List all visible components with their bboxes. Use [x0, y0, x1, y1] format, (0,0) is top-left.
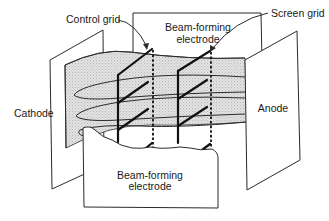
- cathode-label: Cathode: [14, 107, 54, 119]
- bottom-beam-forming-electrode: [83, 127, 218, 208]
- anode-label: Anode: [258, 102, 289, 114]
- top-beam-forming-label-line2: electrode: [176, 33, 219, 45]
- beam-tube-diagram: Control grid Screen grid Beam-forming el…: [0, 0, 329, 221]
- bottom-beam-forming-label-line2: electrode: [128, 180, 171, 192]
- control-grid-label: Control grid: [66, 13, 120, 25]
- screen-grid-label: Screen grid: [271, 7, 325, 19]
- top-beam-forming-label-line1: Beam-forming: [165, 21, 231, 33]
